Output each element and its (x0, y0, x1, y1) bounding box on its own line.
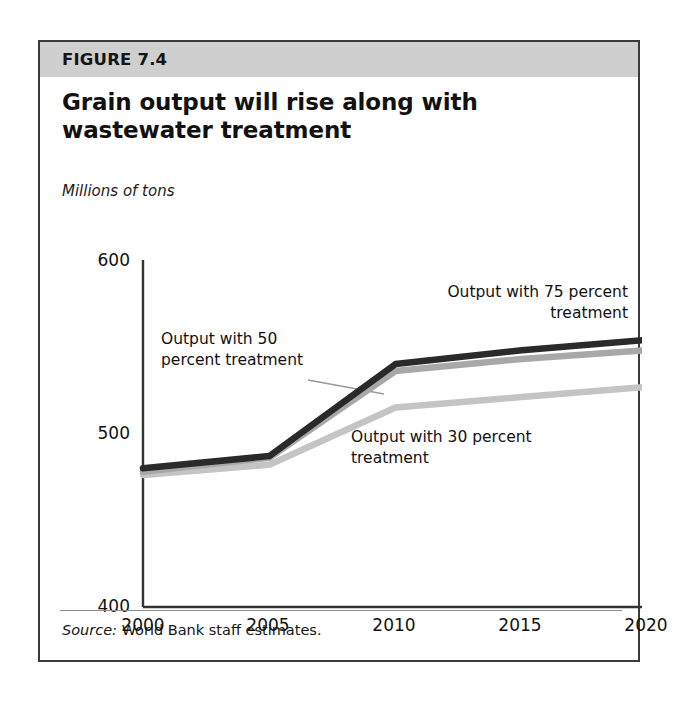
annotation-75-line1: Output with 75 percent (376, 282, 628, 303)
annotation-50-line2: percent treatment (161, 350, 371, 371)
source-prefix: Source: (62, 622, 117, 638)
x-tick-label-2010: 2010 (361, 615, 427, 635)
y-tick-label-500: 500 (78, 423, 130, 443)
annotation-75-percent: Output with 75 percent treatment (376, 282, 628, 323)
annotation-50-percent: Output with 50 percent treatment (161, 329, 371, 370)
line-chart-svg (40, 172, 642, 612)
y-tick-label-600: 600 (78, 250, 130, 270)
annotation-30-line1: Output with 30 percent (351, 427, 591, 448)
annotation-30-line2: treatment (351, 448, 591, 469)
annotation-50-line1: Output with 50 (161, 329, 371, 350)
figure-title: Grain output will rise along with wastew… (62, 88, 582, 144)
source-text: World Bank staff estimates. (122, 622, 322, 638)
figure-number-band: FIGURE 7.4 (40, 42, 638, 77)
source-note: Source: World Bank staff estimates. (62, 622, 322, 638)
annotation-30-percent: Output with 30 percent treatment (351, 427, 591, 468)
figure-container: FIGURE 7.4 Grain output will rise along … (38, 40, 640, 662)
y-tick-label-400: 400 (78, 596, 130, 616)
chart-plot-area: 600 500 400 2000 2005 2010 2015 2020 Out… (40, 172, 642, 612)
annotation-75-line2: treatment (376, 303, 628, 324)
figure-number-label: FIGURE 7.4 (62, 50, 167, 69)
x-tick-label-2020: 2020 (613, 615, 678, 635)
x-tick-label-2015: 2015 (487, 615, 553, 635)
source-divider (60, 610, 622, 611)
